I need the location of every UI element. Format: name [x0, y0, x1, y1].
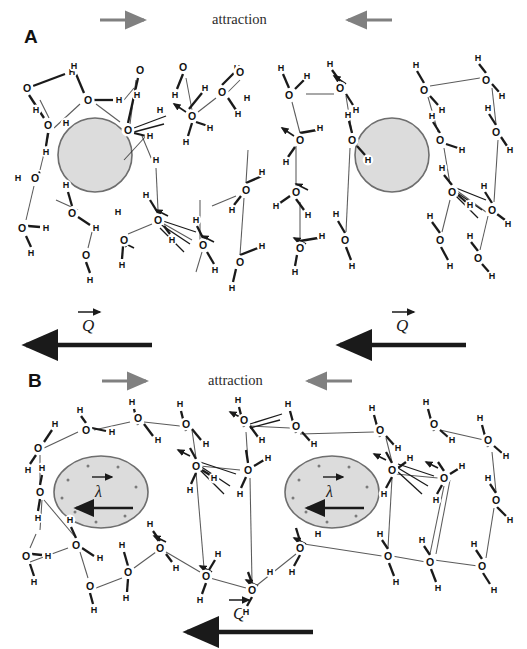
oxygen-atom-label: O — [236, 256, 244, 268]
hydrogen-atom-label: H — [507, 145, 514, 155]
hydrogen-atom-label: H — [285, 399, 292, 409]
oxygen-atom-label: O — [134, 412, 142, 424]
hydrogen-atom-label: H — [427, 211, 434, 221]
oxygen-atom-label: O — [18, 222, 26, 234]
oxygen-atom-label: O — [240, 414, 248, 426]
oxygen-atom-label: O — [242, 184, 250, 196]
oxygen-atom-label: O — [292, 186, 300, 198]
hydrogen-atom-label: H — [33, 105, 40, 115]
oxygen-atom-label: O — [430, 418, 438, 430]
hydrogen-atom-label: H — [202, 83, 209, 93]
hydrogen-atom-label: H — [67, 515, 74, 525]
hydrogen-atom-label: H — [183, 137, 190, 147]
hydrogen-atom-label: H — [327, 59, 334, 69]
hydrogen-atom-label: H — [289, 567, 296, 577]
hydrogen-atom-label: H — [123, 593, 130, 603]
oxygen-atom-label: O — [440, 472, 448, 484]
hydrogen-atom-label: H — [71, 61, 78, 71]
hydrogen-atom-label: H — [369, 403, 376, 413]
hydrogen-atom-label: H — [435, 583, 442, 593]
panel-a-charge-label-left: Q — [82, 316, 94, 335]
hydrogen-atom-label: H — [229, 205, 236, 215]
hydrogen-atom-label: H — [395, 443, 402, 453]
oxygen-atom-label: O — [154, 214, 162, 226]
hydrogen-atom-label: H — [283, 157, 290, 167]
oxygen-atom-label: O — [474, 252, 482, 264]
hydrogen-atom-label: H — [119, 540, 126, 550]
hydrogen-atom-label: H — [273, 201, 280, 211]
hydrogen-atom-label: H — [485, 473, 492, 483]
hydrogen-atom-label: H — [129, 397, 136, 407]
oxygen-atom-label: O — [124, 566, 132, 578]
hydrogen-atom-label: H — [467, 200, 474, 210]
oxygen-atom-label: O — [426, 556, 434, 568]
oxygen-atom-label: O — [182, 418, 190, 430]
oxygen-atom-label: O — [236, 66, 244, 78]
hydrogen-atom-label: H — [439, 105, 446, 115]
hydrogen-atom-label: H — [349, 261, 356, 271]
hydrogen-atom-label: H — [243, 607, 250, 617]
panel-b-dipole-label-right: λ — [325, 483, 333, 500]
oxygen-atom-label: O — [488, 204, 496, 216]
hydrogen-atom-label: H — [134, 90, 141, 100]
hydrogen-atom-label: H — [505, 219, 512, 229]
hydrogen-atom-label: H — [15, 173, 22, 183]
oxygen-atom-label: O — [348, 134, 356, 146]
hydrogen-atom-label: H — [319, 231, 326, 241]
hydrogen-atom-label: H — [439, 163, 446, 173]
hydrogen-atom-label: H — [317, 123, 324, 133]
oxygen-atom-label: O — [296, 242, 304, 254]
hydrogen-atom-label: H — [485, 103, 492, 113]
hydrogen-atom-label: H — [449, 435, 456, 445]
hydrogen-atom-label: H — [459, 461, 466, 471]
hydrogen-atom-label: H — [229, 283, 236, 293]
oxygen-atom-label: O — [218, 86, 226, 98]
hydrogen-atom-label: H — [77, 405, 84, 415]
hydrogen-atom-label: H — [35, 513, 42, 523]
oxygen-atom-label: O — [376, 424, 384, 436]
oxygen-atom-label: O — [44, 119, 52, 131]
oxygen-atom-label: O — [82, 249, 90, 261]
oxygen-atom-label: O — [86, 580, 94, 592]
oxygen-atom-label: O — [72, 539, 80, 551]
hydrogen-atom-label: H — [155, 435, 162, 445]
hydrogen-atom-label: H — [43, 147, 50, 157]
oxygen-atom-label: O — [120, 234, 128, 246]
hydrogen-atom-label: H — [197, 595, 204, 605]
hydrogen-atom-label: H — [305, 210, 312, 220]
hydrogen-atom-label: H — [475, 53, 482, 63]
oxygen-atom-label: O — [296, 134, 304, 146]
oxygen-atom-label: O — [188, 110, 196, 122]
hydrogen-atom-label: H — [459, 145, 466, 155]
oxygen-atom-label: O — [341, 234, 349, 246]
hydrogen-atom-label: H — [147, 131, 154, 141]
hydrogen-atom-label: H — [429, 111, 436, 121]
hydrogen-atom-label: H — [278, 63, 285, 73]
hydrogen-atom-label: H — [87, 275, 94, 285]
oxygen-atom-label: O — [492, 126, 500, 138]
hydrogen-atom-label: H — [172, 90, 179, 100]
oxygen-atom-label: O — [292, 420, 300, 432]
oxygen-atom-label: O — [68, 207, 76, 219]
hydrogen-atom-label: H — [157, 105, 164, 115]
hydrogen-atom-label: H — [119, 260, 126, 270]
hydrogen-atom-label: H — [207, 123, 214, 133]
oxygen-atom-label: O — [482, 74, 490, 86]
hydrogen-atom-label: H — [333, 209, 340, 219]
hydrogen-atom-label: H — [381, 489, 388, 499]
oxygen-atom-label: O — [82, 424, 90, 436]
hydrogen-atom-label: H — [147, 519, 154, 529]
hydrogen-atom-label: H — [345, 110, 352, 120]
figure-canvas: Q Q — [0, 0, 527, 649]
hydrogen-atom-label: H — [169, 235, 176, 245]
hydrogen-atom-label: H — [304, 71, 311, 81]
hydrogen-atom-label: H — [365, 155, 372, 165]
hydrogen-atom-label: H — [499, 91, 506, 101]
hydrogen-atom-label: H — [413, 60, 420, 70]
hydrogen-atom-label: H — [31, 577, 38, 587]
hydrogen-atom-label: H — [407, 453, 414, 463]
hydrogen-atom-label: H — [28, 248, 35, 258]
oxygen-atom-label: O — [34, 442, 42, 454]
hydrogen-atom-label: H — [193, 215, 200, 225]
hydrogen-atom-label: H — [45, 551, 52, 561]
